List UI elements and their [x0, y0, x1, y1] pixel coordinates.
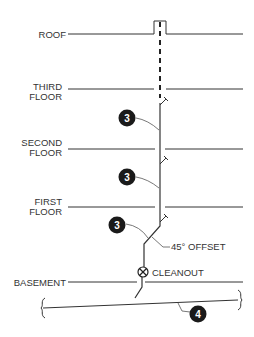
callout-badge-3-middle: 3 — [119, 169, 136, 186]
branch-fittings — [160, 97, 168, 222]
callout-badge-4: 4 — [190, 306, 207, 323]
cleanout-icon — [138, 267, 148, 277]
callout-badge-3-upper: 3 — [119, 110, 136, 127]
plumbing-stack-diagram: ROOF THIRD FLOOR SECOND FLOOR FIRST FLOO… — [0, 0, 254, 337]
building-drain — [43, 300, 238, 308]
label-first-line2: FLOOR — [29, 206, 62, 217]
label-basement: BASEMENT — [14, 277, 66, 288]
label-second-line2: FLOOR — [29, 147, 62, 158]
label-third-line2: FLOOR — [29, 91, 62, 102]
break-mark-right-icon — [238, 290, 242, 310]
svg-text:3: 3 — [124, 172, 130, 183]
svg-text:4: 4 — [195, 309, 201, 320]
svg-text:3: 3 — [124, 113, 130, 124]
branch-fitting-first — [160, 214, 168, 222]
branch-fitting-second — [160, 156, 168, 164]
label-cleanout: CLEANOUT — [152, 267, 204, 278]
label-roof: ROOF — [39, 29, 67, 40]
svg-text:3: 3 — [114, 220, 120, 231]
label-45-offset: 45° OFFSET — [171, 241, 226, 252]
callout-badge-3-lower: 3 — [109, 217, 126, 234]
leader-lines — [126, 118, 190, 312]
branch-fitting-third — [160, 97, 168, 105]
